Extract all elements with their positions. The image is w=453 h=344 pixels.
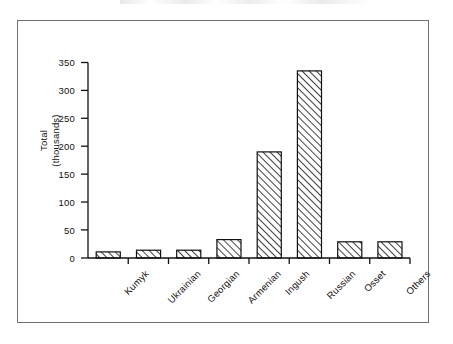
- scan-artifact: [120, 0, 370, 4]
- bar-georgian: [177, 250, 201, 258]
- bar-kumyk: [96, 252, 120, 258]
- y-axis-ticks: [81, 63, 88, 259]
- y-tick-label-250: 250: [41, 113, 75, 124]
- y-tick-label-350: 350: [41, 57, 75, 68]
- bar-series: [96, 71, 402, 258]
- y-tick-label-300: 300: [41, 85, 75, 96]
- bar-armenian: [217, 240, 241, 258]
- x-axis-ticks: [128, 258, 410, 264]
- y-tick-label-200: 200: [41, 141, 75, 152]
- bar-russian: [297, 71, 321, 258]
- bar-others: [378, 242, 402, 258]
- bar-ukrainian: [137, 250, 161, 258]
- y-tick-label-100: 100: [41, 197, 75, 208]
- y-tick-label-50: 50: [41, 225, 75, 236]
- bar-ingush: [257, 152, 281, 258]
- chart-frame: Total(thousands): [17, 20, 429, 323]
- y-tick-label-0: 0: [41, 253, 75, 264]
- bar-osset: [338, 242, 362, 258]
- y-tick-label-150: 150: [41, 169, 75, 180]
- figure-container: Total(thousands): [0, 0, 453, 344]
